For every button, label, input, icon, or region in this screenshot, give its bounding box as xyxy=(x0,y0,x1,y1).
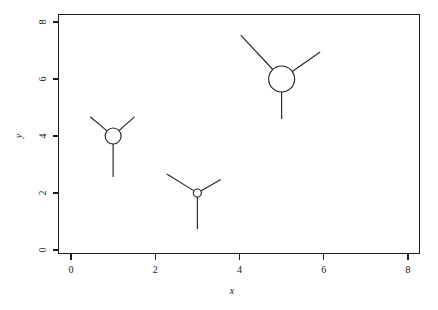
point-3-circle xyxy=(269,66,295,92)
y-tick-label-8: 8 xyxy=(37,20,48,25)
plot-canvas: 02468 02468 x y xyxy=(0,0,438,310)
x-tick-label-6: 6 xyxy=(321,264,326,275)
point-1-upper-left-ray xyxy=(90,117,107,131)
plot-frame xyxy=(59,15,420,254)
point-2-upper-left-ray xyxy=(167,174,194,191)
x-axis-tick-labels: 02468 xyxy=(69,264,411,275)
x-tick-label-8: 8 xyxy=(406,264,411,275)
glyph-point-2 xyxy=(167,174,221,229)
point-3-upper-right-ray xyxy=(292,52,320,72)
y-tick-label-4: 4 xyxy=(37,134,48,139)
point-1-upper-right-ray xyxy=(119,117,135,131)
y-axis-tick-labels: 02468 xyxy=(37,20,48,253)
y-tick-label-2: 2 xyxy=(37,191,48,196)
glyph-point-3 xyxy=(241,35,320,119)
y-axis-title: y xyxy=(13,133,24,139)
point-2-circle xyxy=(193,189,201,197)
point-3-upper-left-ray xyxy=(241,35,273,69)
point-2-upper-right-ray xyxy=(201,180,221,192)
x-axis-ticks xyxy=(71,254,408,260)
x-tick-label-4: 4 xyxy=(237,264,242,275)
scatter-plot-figure: 02468 02468 x y xyxy=(0,0,438,310)
x-tick-label-2: 2 xyxy=(153,264,158,275)
x-tick-label-0: 0 xyxy=(69,264,74,275)
y-tick-label-0: 0 xyxy=(37,248,48,253)
point-1-circle xyxy=(105,128,121,144)
x-axis-title: x xyxy=(229,285,235,296)
y-axis-ticks xyxy=(53,22,59,250)
data-point-glyphs xyxy=(90,35,320,229)
y-tick-label-6: 6 xyxy=(37,77,48,82)
glyph-point-1 xyxy=(90,117,135,177)
